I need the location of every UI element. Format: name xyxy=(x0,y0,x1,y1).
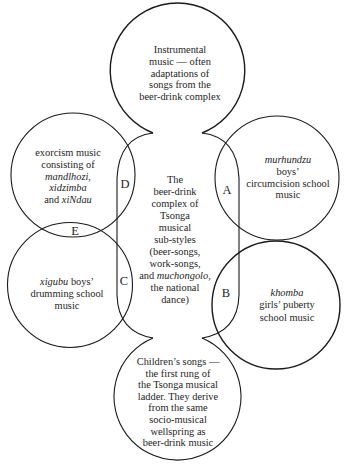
overlap-label-a: A xyxy=(222,184,231,197)
text-line: and xiNdau xyxy=(18,194,118,206)
khomba-circle-text: khomba girls’ puberty school music xyxy=(237,287,337,324)
overlap-label-b: B xyxy=(222,287,230,300)
overlap-label-d: D xyxy=(120,178,129,191)
text-line: complex of xyxy=(125,198,225,210)
text-line: drumming school xyxy=(12,288,122,300)
text-line: Tsonga xyxy=(125,210,225,222)
exorcism-circle-text: exorcism music consisting of mandlhozi, … xyxy=(18,147,118,206)
text-line: exorcism music xyxy=(18,147,118,159)
text-line: ladder. They derive xyxy=(123,391,233,403)
center-region-text: The beer-drink complex of Tsonga musical… xyxy=(125,174,225,306)
text-line: musical xyxy=(125,222,225,234)
text-line: (beer-songs, xyxy=(125,246,225,258)
text-line: school music xyxy=(237,312,337,324)
italic-term-khomba: khomba xyxy=(237,287,337,299)
italic-term-mandlhozi: mandlhozi, xyxy=(18,171,118,183)
text-line: xigubu boys’ xyxy=(12,276,122,288)
italic-term-murhundzu: murhundzu xyxy=(238,154,338,166)
text-line: and muchongolo, xyxy=(125,270,225,282)
text-line: Instrumental xyxy=(125,44,235,56)
text-line: music xyxy=(238,189,338,201)
text-line: boys’ xyxy=(238,166,338,178)
text-line: songs from the xyxy=(125,79,235,91)
text-line: beer-drink music xyxy=(123,437,233,449)
text-line: from the same xyxy=(123,402,233,414)
murhundzu-circle-text: murhundzu boys’ circumcision school musi… xyxy=(238,154,338,201)
text-line: socio-musical xyxy=(123,414,233,426)
tsonga-music-diagram: Instrumental music — often adaptations o… xyxy=(0,0,349,469)
italic-term-xidzimba: xidzimba xyxy=(18,182,118,194)
overlap-label-e: E xyxy=(71,225,79,238)
text-line: circumcision school xyxy=(238,178,338,190)
text-segment: , xyxy=(208,270,211,281)
text-line: wellspring as xyxy=(123,426,233,438)
text-line: the national xyxy=(125,282,225,294)
text-line: the first rung of xyxy=(123,368,233,380)
text-segment: boys’ xyxy=(68,276,94,287)
text-line: music — often xyxy=(125,56,235,68)
italic-term-muchongolo: muchongolo xyxy=(157,270,208,281)
italic-term-xigubu: xigubu xyxy=(40,276,68,287)
text-line: beer-drink complex xyxy=(125,91,235,103)
text-line: consisting of xyxy=(18,159,118,171)
text-line: girls’ puberty xyxy=(237,299,337,311)
top-circle-text: Instrumental music — often adaptations o… xyxy=(125,44,235,103)
overlap-label-c: C xyxy=(120,275,128,288)
text-line: music xyxy=(12,300,122,312)
text-line: Children’s songs — xyxy=(123,356,233,368)
italic-term-xindau: xiNdau xyxy=(62,194,92,205)
text-line: beer-drink xyxy=(125,186,225,198)
bottom-circle-text: Children’s songs — the first rung of the… xyxy=(123,356,233,449)
text-line: work-songs, xyxy=(125,258,225,270)
text-segment: and xyxy=(139,270,157,281)
text-segment: and xyxy=(44,194,62,205)
text-line: dance) xyxy=(125,294,225,306)
text-line: The xyxy=(125,174,225,186)
text-line: sub-styles xyxy=(125,234,225,246)
text-line: adaptations of xyxy=(125,68,235,80)
text-line: the Tsonga musical xyxy=(123,379,233,391)
xigubu-circle-text: xigubu boys’ drumming school music xyxy=(12,276,122,311)
